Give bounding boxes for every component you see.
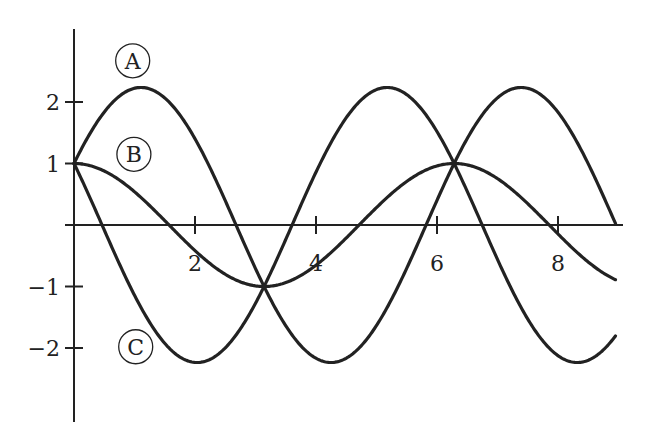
y-tick-label: 2: [46, 90, 60, 115]
chart: 246821−1−2 ABC: [0, 0, 654, 435]
y-tick-label: −2: [28, 336, 60, 361]
x-tick-label: 6: [430, 251, 444, 276]
y-tick-label: −1: [28, 275, 60, 300]
label-letter: C: [127, 335, 144, 360]
label-b: B: [117, 137, 151, 171]
x-tick-label: 8: [551, 251, 565, 276]
label-letter: A: [124, 49, 142, 74]
label-letter: B: [126, 142, 142, 167]
label-c: C: [119, 330, 153, 364]
y-tick-label: 1: [46, 152, 60, 177]
label-a: A: [116, 44, 150, 78]
